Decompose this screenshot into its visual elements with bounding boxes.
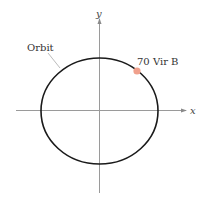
orbit-leader-line (48, 53, 60, 68)
orbit-diagram: x y Orbit 70 Vir B (0, 0, 205, 203)
orbit-label: Orbit (27, 42, 54, 53)
x-axis-label: x (190, 105, 196, 116)
planet-label: 70 Vir B (137, 56, 178, 67)
planet-dot (133, 67, 140, 74)
y-axis-label: y (95, 8, 102, 19)
